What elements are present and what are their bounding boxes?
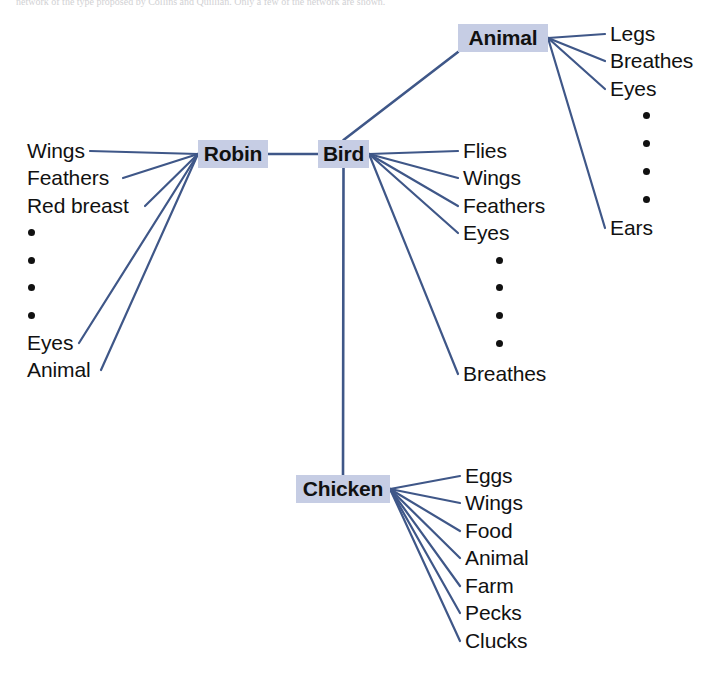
property-line-bird-0 [369,151,458,154]
ellipsis-dot [496,340,503,347]
property-line-bird-1 [369,154,458,178]
property-label-animal: Animal [27,358,91,382]
property-line-chicken-4 [390,489,460,586]
property-line-robin-1 [123,154,198,178]
property-line-bird-3 [369,154,458,233]
semantic-network-figure: network of the type proposed by Collins … [0,0,721,673]
ellipsis-dot [28,257,35,264]
property-label-breathes: Breathes [610,49,693,73]
property-label-feathers: Feathers [27,166,109,190]
property-label-breathes: Breathes [463,362,546,386]
property-label-legs: Legs [610,22,655,46]
property-line-bird-2 [369,154,458,206]
ellipsis-dot [496,284,503,291]
ellipsis-dot [643,112,650,119]
property-line-chicken-2 [390,489,460,531]
concept-node-robin: Robin [198,140,268,168]
concept-node-animal: Animal [458,24,548,52]
property-line-robin-2 [145,154,198,206]
edge-bird-chicken [343,168,344,475]
ellipsis-dot [28,229,35,236]
property-label-eyes: Eyes [610,77,656,101]
ellipsis-dot [496,312,503,319]
property-label-flies: Flies [463,139,507,163]
property-line-chicken-0 [390,476,460,489]
property-label-feathers: Feathers [463,194,545,218]
property-line-chicken-3 [390,489,460,558]
property-label-wings: Wings [463,166,521,190]
property-label-clucks: Clucks [465,629,527,653]
property-line-robin-8 [101,154,198,370]
figure-caption: network of the type proposed by Collins … [16,0,706,7]
ellipsis-dot [643,196,650,203]
ellipsis-dot [28,312,35,319]
property-line-chicken-5 [390,489,460,613]
property-label-food: Food [465,519,512,543]
property-label-eggs: Eggs [465,464,512,488]
property-label-farm: Farm [465,574,514,598]
concept-node-bird: Bird [318,140,369,168]
ellipsis-dot [28,284,35,291]
property-line-robin-0 [90,151,198,154]
concept-node-chicken: Chicken [296,475,390,503]
property-label-animal: Animal [465,546,529,570]
edge-bird-animal [344,52,459,140]
ellipsis-dot [643,140,650,147]
ellipsis-dot [496,257,503,264]
property-line-animal-0 [548,34,605,38]
property-label-wings: Wings [465,491,523,515]
property-line-animal-1 [548,38,605,61]
ellipsis-dot [643,168,650,175]
property-line-chicken-1 [390,489,460,503]
property-label-ears: Ears [610,216,653,240]
property-label-wings: Wings [27,139,85,163]
property-label-eyes: Eyes [27,331,73,355]
property-line-animal-2 [548,38,605,89]
property-label-red-breast: Red breast [27,194,129,218]
property-line-chicken-6 [390,489,460,641]
property-label-pecks: Pecks [465,601,522,625]
property-label-eyes: Eyes [463,221,509,245]
property-line-bird-8 [369,154,458,374]
property-line-animal-7 [548,38,605,228]
